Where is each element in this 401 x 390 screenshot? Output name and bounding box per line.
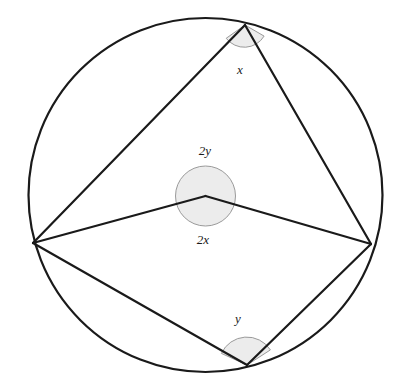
chord-top-to-right	[245, 25, 371, 244]
inscribed-angle-x-wedge	[226, 25, 264, 47]
inscribed-angle-y-wedge	[221, 337, 270, 365]
chord-right-to-bottom	[247, 244, 371, 365]
geometry-figure: x 2y 2x y	[0, 0, 401, 390]
radius-right-to-center	[206, 196, 372, 244]
label-inscribed-angle-y: y	[233, 311, 241, 326]
label-inscribed-angle-x: x	[236, 62, 243, 77]
radius-left-to-center	[33, 196, 206, 243]
label-central-angle-2x: 2x	[197, 232, 210, 247]
circle-theorem-svg: x 2y 2x y	[0, 0, 401, 390]
label-central-angle-2y: 2y	[199, 143, 212, 158]
